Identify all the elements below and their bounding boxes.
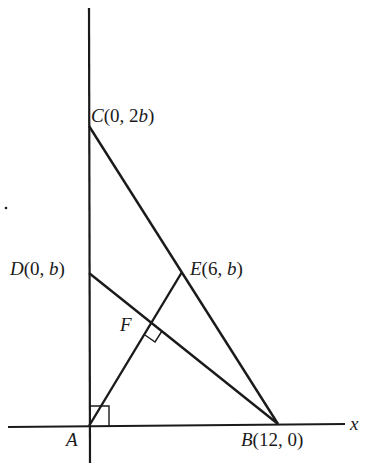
label-b: B(12, 0) <box>241 429 303 451</box>
label-d: D(0, b) <box>9 258 65 280</box>
y-axis <box>89 8 90 463</box>
segment-ae <box>89 272 182 426</box>
label-f: F <box>119 314 132 335</box>
stray-dot <box>5 207 8 210</box>
geometry-diagram: C(0, 2b) D(0, b) E(6, b) F A B(12, 0) x <box>0 0 367 468</box>
right-angle-marker-f <box>145 331 162 342</box>
label-x-axis: x <box>349 413 359 434</box>
segment-db <box>89 273 278 424</box>
label-c: C(0, 2b) <box>91 105 154 127</box>
label-e: E(6, b) <box>189 258 243 280</box>
x-axis <box>8 424 345 427</box>
label-a: A <box>64 429 78 450</box>
